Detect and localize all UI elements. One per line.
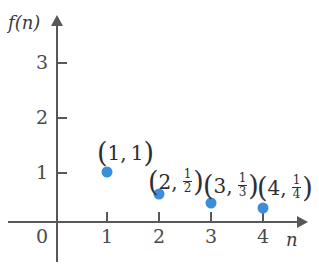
comma: , [120, 143, 130, 163]
fraction-denominator: 2 [183, 183, 193, 194]
fraction-numerator: 1 [238, 173, 248, 184]
y-axis-arrowhead-icon [51, 15, 63, 26]
comma: , [226, 176, 236, 196]
fraction-numerator: 1 [183, 169, 193, 180]
point-x-value: 4 [268, 178, 281, 198]
open-paren: ( [148, 170, 159, 194]
fraction-one-fourth: 1 4 [292, 175, 302, 200]
x-tick-label: 3 [199, 227, 223, 246]
origin-tick-label: 0 [26, 227, 48, 246]
point-x-value: 2 [159, 172, 172, 192]
y-tick-label: 1 [26, 163, 48, 182]
x-tick-mark [158, 212, 160, 221]
data-point [102, 167, 113, 178]
x-axis-label: n [286, 231, 298, 249]
x-tick-label: 4 [251, 227, 275, 246]
data-point [258, 203, 269, 214]
y-tick-label: 3 [26, 53, 48, 72]
point-label-4: ( 4 , 1 4 ) [257, 175, 313, 200]
point-x-value: 3 [214, 176, 227, 196]
y-tick-mark [58, 117, 67, 119]
open-paren: ( [203, 174, 214, 198]
fraction-one-third: 1 3 [238, 173, 248, 198]
x-tick-label: 1 [95, 227, 119, 246]
fraction-one-half: 1 2 [183, 169, 193, 194]
close-paren: ) [302, 176, 313, 200]
fraction-denominator: 3 [238, 187, 248, 198]
y-tick-mark [58, 172, 67, 174]
point-x-value: 1 [108, 143, 121, 163]
comma: , [171, 172, 181, 192]
y-axis-line [56, 24, 58, 262]
point-label-1: ( 1 , 1 ) [97, 141, 154, 165]
y-tick-mark [58, 62, 67, 64]
y-tick-label: 2 [26, 108, 48, 127]
point-label-2: ( 2 , 1 2 ) [148, 169, 204, 194]
point-y-value: 1 [131, 143, 144, 163]
x-axis-arrowhead-icon [297, 216, 308, 228]
x-tick-mark [210, 212, 212, 221]
function-scatter-plot-figure: f(n) n 3 2 1 1 2 3 4 0 ( 1 , 1 ) ( 2 , 1… [0, 0, 319, 266]
open-paren: ( [97, 141, 108, 165]
open-paren: ( [257, 176, 268, 200]
fraction-numerator: 1 [292, 175, 302, 186]
point-label-3: ( 3 , 1 3 ) [203, 173, 259, 198]
close-paren: ) [143, 141, 154, 165]
comma: , [280, 178, 290, 198]
x-axis-line [8, 221, 300, 223]
x-tick-label: 2 [147, 227, 171, 246]
fraction-denominator: 4 [292, 189, 302, 200]
x-tick-mark [106, 212, 108, 221]
y-axis-label: f(n) [8, 14, 40, 32]
